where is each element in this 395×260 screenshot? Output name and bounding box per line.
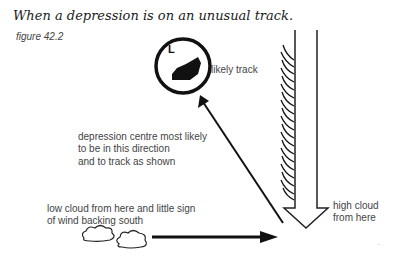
cirrus-streaks-icon [281,45,294,200]
depression-centre-line-1: depression centre most likely [78,131,207,143]
high-cloud-line-1: high cloud [333,200,379,212]
arrow-up-left-icon [198,95,283,223]
low-pressure-symbol: L [168,43,175,55]
svg-text:.: . [378,240,380,246]
low-pressure-circle-icon [156,39,210,93]
low-cloud-line-1: low cloud from here and little sign [47,203,195,215]
low-cloud-line-2: of wind backing south [47,215,143,227]
depression-centre-line-3: and to track as shown [78,156,175,168]
cloud-icon [82,226,146,249]
arrow-right-icon [152,231,278,243]
likely-track-label: likely track [211,64,258,76]
high-cloud-line-2: from here [333,212,376,224]
depression-centre-line-2: to be in this direction [78,143,170,155]
